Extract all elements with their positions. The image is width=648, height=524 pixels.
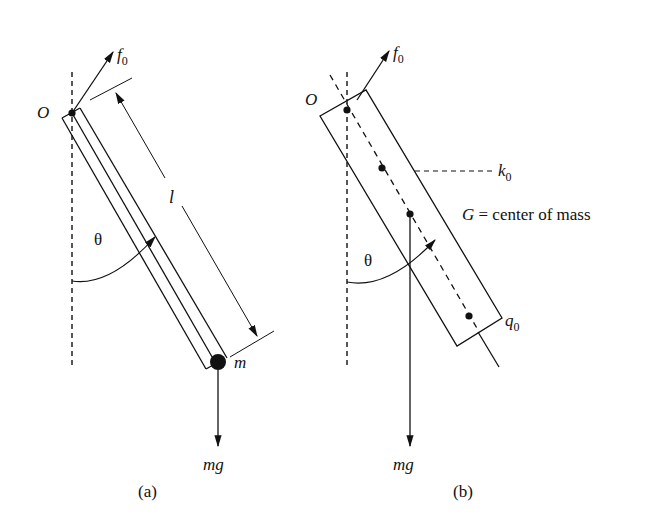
length-dimension xyxy=(90,78,274,357)
body-centerline xyxy=(330,75,478,330)
angle-label: θ xyxy=(94,230,102,249)
center-of-mass-note: G = center of mass xyxy=(462,205,591,224)
mass-label: m xyxy=(234,353,246,372)
pivot-point xyxy=(343,106,350,113)
force-label: f0 xyxy=(393,43,404,66)
k0-label: k0 xyxy=(498,161,512,184)
figure-a-caption: (a) xyxy=(138,482,157,501)
pendulum-figure: O f0 l θ m mg (a) xyxy=(0,0,648,524)
reaction-force-arrow xyxy=(357,51,389,100)
rod xyxy=(62,108,227,369)
point-q0 xyxy=(465,312,472,319)
force-label: f0 xyxy=(117,45,128,68)
angle-arc xyxy=(347,240,435,283)
angle-label: θ xyxy=(364,251,372,270)
figure-a-simple-pendulum: O f0 l θ m mg (a) xyxy=(37,45,274,501)
weight-label: mg xyxy=(393,455,414,474)
length-label: l xyxy=(169,187,174,207)
point-k0 xyxy=(378,164,385,171)
pivot-label: O xyxy=(37,103,49,122)
weight-label: mg xyxy=(203,455,224,474)
figure-b-caption: (b) xyxy=(453,482,473,501)
mass-bob xyxy=(210,354,226,370)
reaction-force-arrow xyxy=(72,52,113,113)
pivot-label: O xyxy=(305,90,317,109)
q0-label: q0 xyxy=(505,311,520,334)
centerline-extension xyxy=(478,332,499,367)
figure-b-physical-pendulum: O f0 k0 G = center of mass θ q0 mg (b) xyxy=(305,43,591,501)
